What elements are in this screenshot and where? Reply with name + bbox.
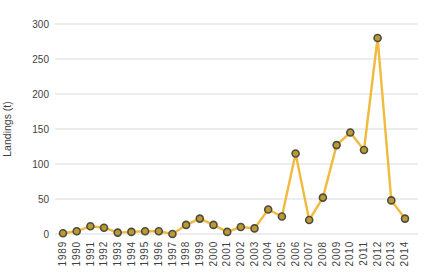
x-tick-label: 2009 (331, 241, 342, 266)
y-tick-label: 0 (43, 229, 49, 240)
x-tick-label: 2002 (235, 241, 246, 266)
data-point (169, 231, 176, 238)
data-point (128, 228, 135, 235)
landings-line-chart: 0501001502002503001989199019911992199319… (0, 0, 428, 278)
data-point (101, 224, 108, 231)
x-tick-label: 1995 (139, 241, 150, 266)
x-tick-label: 2006 (290, 241, 301, 266)
data-point (224, 228, 231, 235)
y-tick-label: 300 (32, 19, 49, 30)
data-point (251, 225, 258, 232)
x-tick-label: 2003 (249, 241, 260, 266)
data-point (183, 221, 190, 228)
data-point (333, 142, 340, 149)
data-point (210, 221, 217, 228)
x-tick-label: 1992 (98, 241, 109, 266)
x-tick-label: 2014 (399, 241, 410, 266)
x-tick-label: 2001 (221, 241, 232, 266)
data-line (63, 38, 405, 234)
x-tick-label: 2012 (372, 241, 383, 266)
x-tick-label: 2013 (386, 241, 397, 266)
y-tick-label: 200 (32, 89, 49, 100)
data-point (347, 129, 354, 136)
chart-container: 0501001502002503001989199019911992199319… (0, 0, 428, 278)
x-tick-label: 2011 (358, 241, 369, 266)
data-point (292, 150, 299, 157)
data-point (306, 217, 313, 224)
y-axis-title: Landings (t) (1, 101, 13, 156)
data-point (196, 215, 203, 222)
data-point (374, 35, 381, 42)
data-point (402, 215, 409, 222)
data-point (142, 228, 149, 235)
data-point (278, 213, 285, 220)
x-tick-label: 1989 (57, 241, 68, 266)
x-tick-label: 1990 (71, 241, 82, 266)
x-tick-label: 1996 (153, 241, 164, 266)
data-point (388, 197, 395, 204)
data-point (60, 230, 67, 237)
data-point (361, 147, 368, 154)
data-point (155, 228, 162, 235)
x-tick-label: 2005 (276, 241, 287, 266)
x-tick-label: 2000 (208, 241, 219, 266)
x-tick-label: 1998 (180, 241, 191, 266)
x-tick-label: 1994 (126, 241, 137, 266)
x-tick-label: 1993 (112, 241, 123, 266)
y-tick-label: 100 (32, 159, 49, 170)
data-point (265, 206, 272, 213)
y-tick-label: 150 (32, 124, 49, 135)
x-tick-label: 1999 (194, 241, 205, 266)
x-tick-label: 1997 (167, 241, 178, 266)
x-tick-label: 2004 (262, 241, 273, 266)
x-tick-label: 2010 (345, 241, 356, 266)
data-point (114, 229, 121, 236)
data-point (87, 223, 94, 230)
data-point (73, 228, 80, 235)
y-tick-label: 50 (38, 194, 50, 205)
data-point (237, 224, 244, 231)
x-tick-label: 2008 (317, 241, 328, 266)
x-tick-label: 2007 (303, 241, 314, 266)
x-tick-label: 1991 (85, 241, 96, 266)
y-tick-label: 250 (32, 54, 49, 65)
data-point (319, 194, 326, 201)
